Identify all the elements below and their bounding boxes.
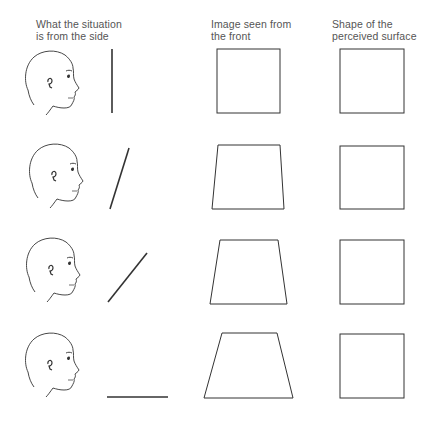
front-image-square — [217, 49, 280, 113]
head-profile-icon — [26, 333, 79, 397]
head-profile-icon — [26, 51, 79, 115]
perceived-shape-square — [340, 334, 404, 398]
front-image-trapezoid — [210, 240, 287, 304]
perception-diagram — [0, 0, 435, 426]
front-image-slight-trapezoid — [212, 145, 284, 209]
surface-side-view-slight-tilt — [110, 148, 129, 209]
perceived-shape-square — [340, 146, 404, 209]
head-profile-icon — [30, 144, 83, 208]
surface-side-view-45-tilt — [108, 253, 147, 302]
perceived-shape-square — [340, 240, 404, 304]
front-image-strong-trapezoid — [204, 333, 293, 398]
perceived-shape-square — [340, 49, 404, 113]
head-profile-icon — [27, 238, 80, 302]
